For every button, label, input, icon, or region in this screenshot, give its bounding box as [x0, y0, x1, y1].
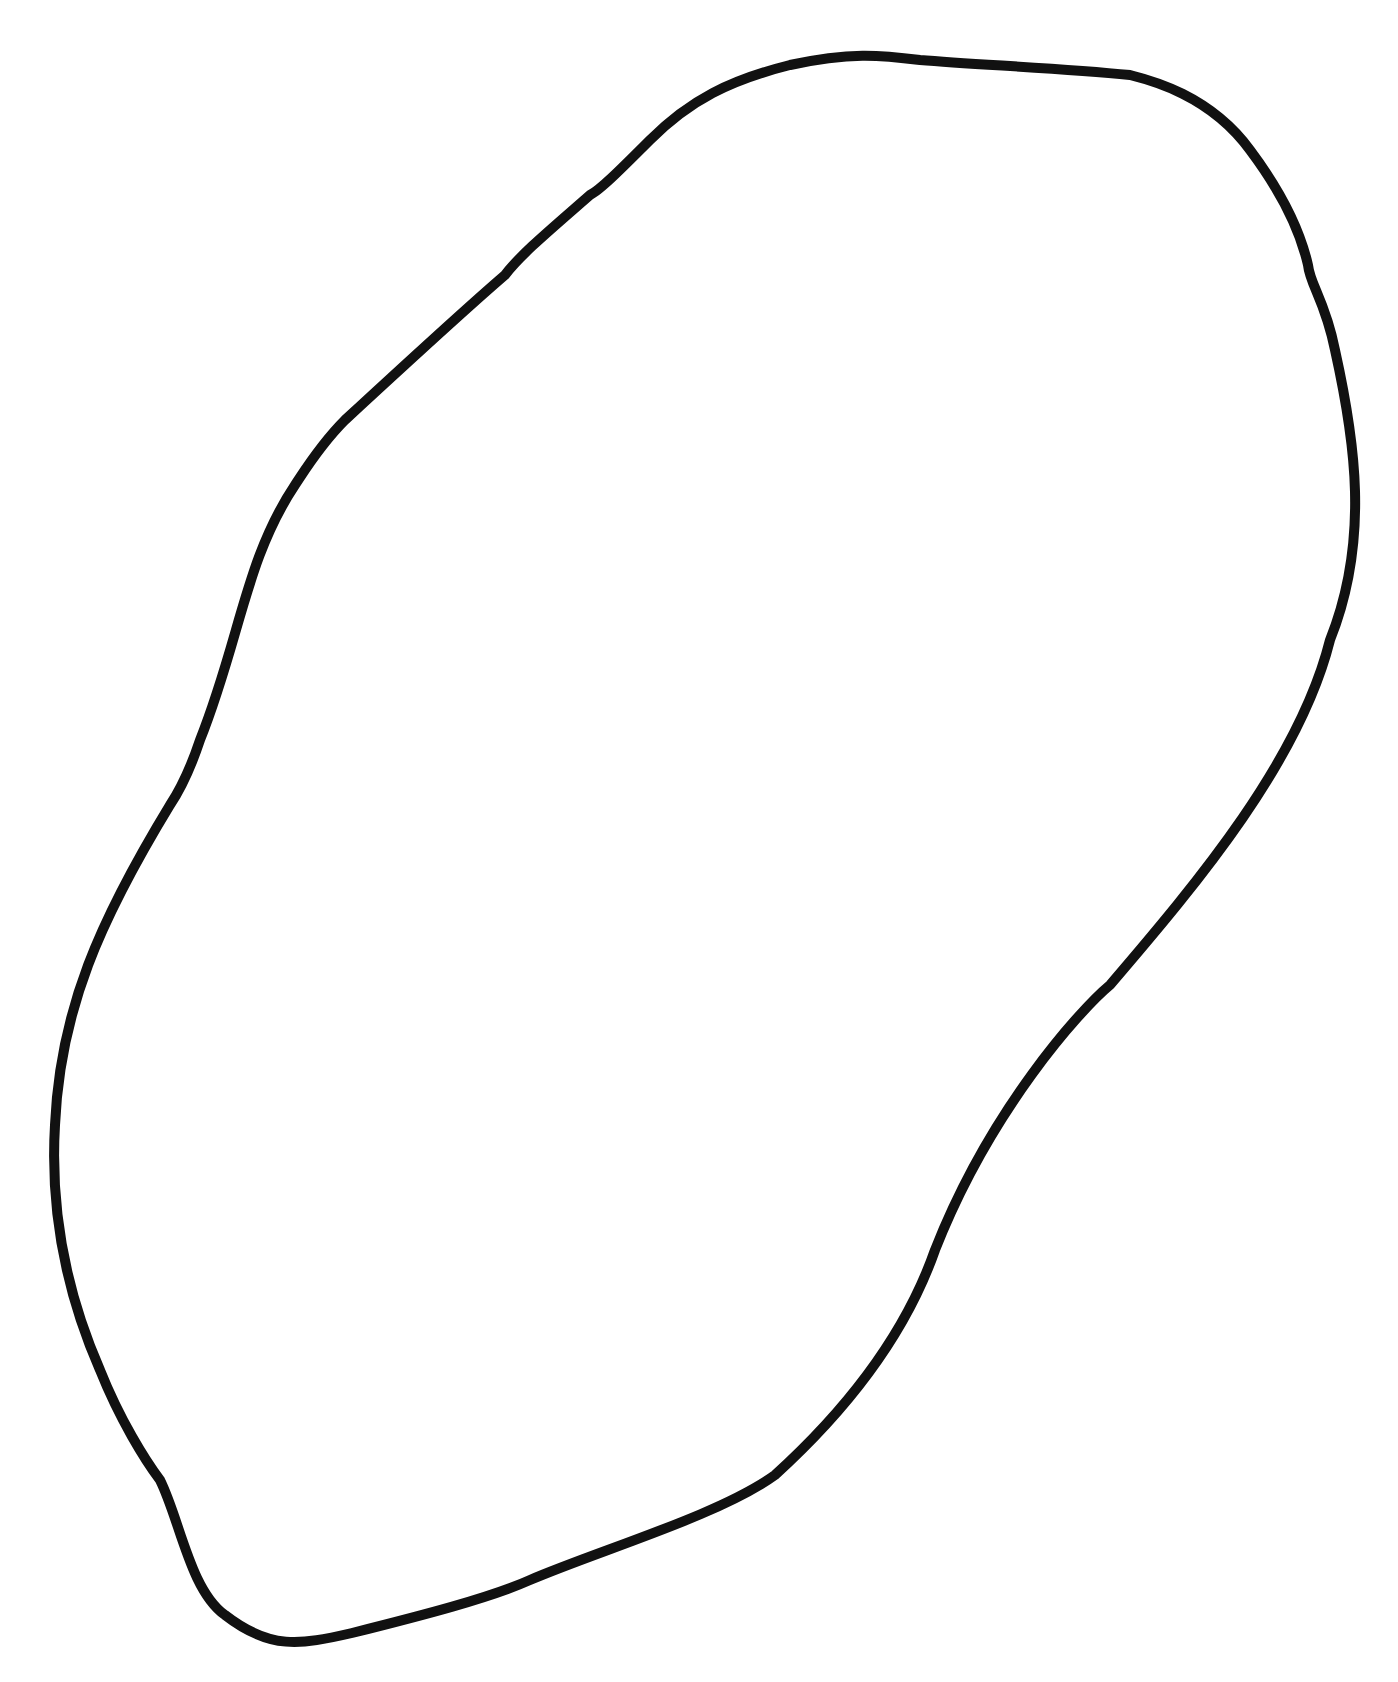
- background: [0, 0, 1398, 1682]
- drawing-canvas: [0, 0, 1398, 1682]
